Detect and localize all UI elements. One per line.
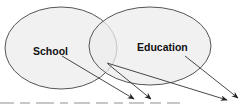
- set-label-education: Education: [137, 42, 188, 53]
- cut-off-text-fragment: [0, 102, 241, 107]
- set-label-school: School: [33, 46, 68, 57]
- arrow: [185, 56, 238, 98]
